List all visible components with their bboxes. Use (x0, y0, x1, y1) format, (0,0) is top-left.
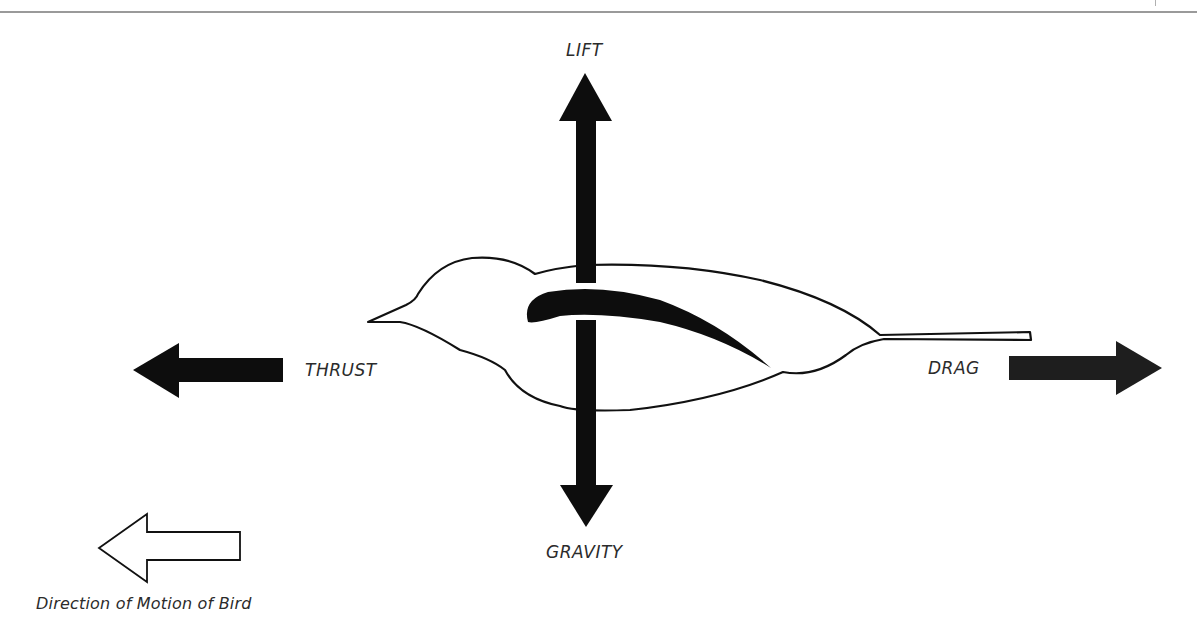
direction-of-motion-arrow-icon (99, 514, 240, 582)
drag-label: DRAG (928, 358, 980, 378)
lift-label: LIFT (566, 40, 603, 60)
thrust-arrow-icon (133, 343, 283, 398)
lift-arrow-icon (559, 73, 612, 284)
drag-arrow-icon (1009, 341, 1162, 395)
gravity-label: GRAVITY (546, 542, 623, 562)
bird-flight-diagram (0, 0, 1197, 633)
direction-of-motion-caption: Direction of Motion of Bird (36, 594, 252, 613)
thrust-label: THRUST (305, 360, 377, 380)
bird-outline (368, 258, 1031, 411)
